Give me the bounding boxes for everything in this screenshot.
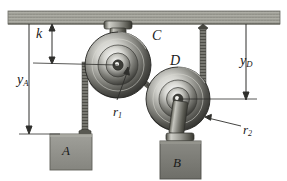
label-yD-subscript: D — [246, 59, 252, 69]
pulley-system-figure: k yA yD C D r1 r2 A B — [0, 0, 287, 181]
ceiling — [8, 11, 280, 24]
label-yA: yA — [17, 73, 29, 88]
label-yD: yD — [240, 54, 252, 69]
label-pulley-D: D — [170, 54, 180, 68]
label-r1-subscript: 1 — [118, 111, 122, 120]
label-r2-subscript: 2 — [248, 129, 252, 138]
leader-r2 — [205, 114, 241, 126]
pulley-C — [85, 32, 151, 98]
label-r2: r2 — [243, 123, 252, 138]
label-r1: r1 — [113, 105, 122, 120]
label-block-A: A — [62, 144, 70, 157]
label-k: k — [36, 27, 42, 41]
block-A — [50, 134, 92, 170]
label-pulley-C: C — [152, 29, 161, 43]
figure-canvas — [0, 0, 287, 181]
label-yA-subscript: A — [23, 78, 28, 88]
label-block-B: B — [173, 156, 181, 169]
